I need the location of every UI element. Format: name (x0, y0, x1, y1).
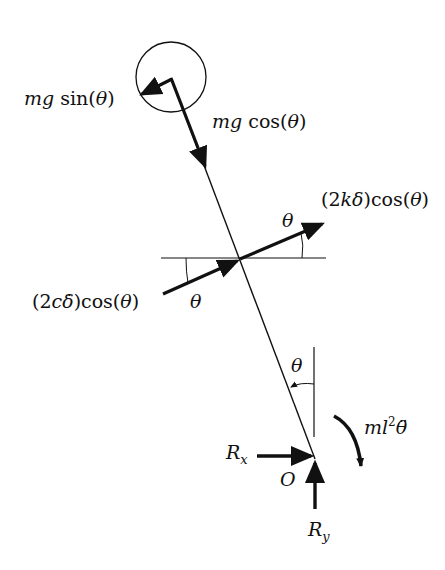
free-body-diagram (0, 0, 445, 570)
moment-label: ml2θ̈ (364, 416, 407, 437)
r-text: R (226, 441, 240, 463)
theta-text: θ (120, 290, 131, 312)
spring-force-arrow (240, 224, 322, 259)
theta-text: θ (287, 110, 298, 132)
cos-text: cos( (248, 110, 287, 132)
cos-text: )cos( (363, 188, 410, 210)
spring-force-label: (2kδ)cos(θ) (321, 190, 429, 209)
sin-text: sin( (60, 87, 95, 109)
theta-text: θ (96, 87, 107, 109)
mg-text: mg (212, 110, 242, 132)
theta-label-lower-left: θ (190, 292, 201, 311)
theta-arc-right (301, 233, 303, 258)
y-subscript: y (322, 529, 329, 544)
mg-cos-label: mg cos(θ) (212, 112, 306, 131)
theta-label-upper-right: θ (282, 211, 293, 230)
open-text: (2 (321, 188, 341, 210)
mg-sin-label: mg sin(θ) (24, 89, 115, 108)
x-subscript: x (240, 452, 247, 467)
theta-text: θ (410, 188, 421, 210)
theta-arc-left (186, 258, 188, 283)
exponent-text: 2 (388, 415, 396, 429)
delta-dot-text: δ̇ (62, 290, 73, 312)
ml-text: ml (364, 416, 388, 438)
paren-close: ) (299, 110, 306, 132)
paren-close: ) (132, 290, 139, 312)
open-text: (2 (32, 290, 52, 312)
paren-close: ) (107, 87, 114, 109)
paren-close: ) (422, 188, 429, 210)
moment-arrow (334, 416, 361, 466)
c-text: c (52, 290, 63, 312)
ry-label: Ry (308, 520, 330, 543)
delta-text: δ (352, 188, 363, 210)
theta-label-vertical: θ (291, 356, 302, 375)
damper-force-label: (2cδ̇)cos(θ) (32, 292, 139, 311)
theta-ddot-text: θ̈ (396, 416, 407, 438)
mg-sin-arrow (142, 79, 172, 94)
mg-cos-arrow (171, 78, 205, 166)
mg-text: mg (24, 87, 54, 109)
origin-label: O (280, 470, 296, 489)
theta-arc-vertical (291, 383, 314, 387)
cos-text: )cos( (74, 290, 121, 312)
rx-label: Rx (226, 443, 248, 466)
mass-circle (136, 42, 206, 112)
r-text: R (308, 518, 322, 540)
k-text: k (341, 188, 353, 210)
